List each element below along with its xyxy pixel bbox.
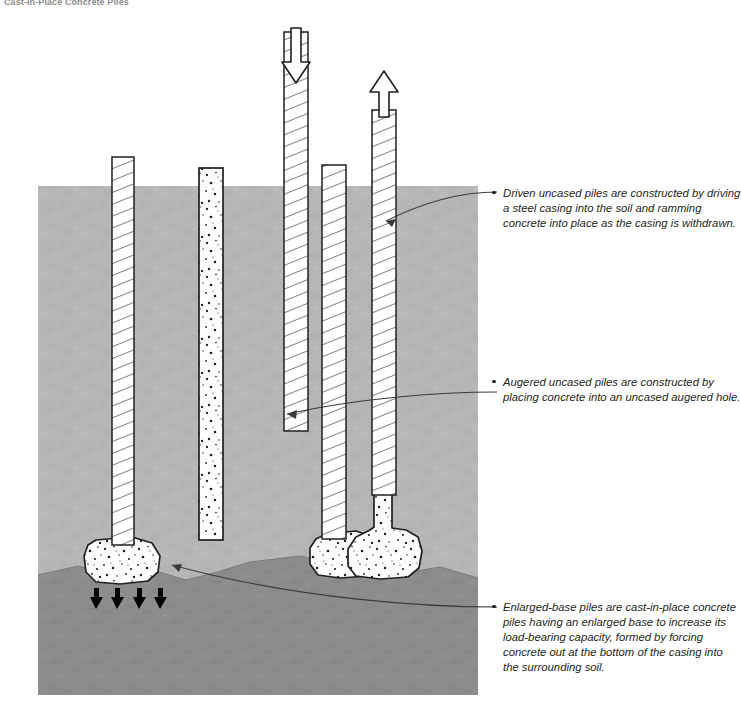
pile-driven-casing (282, 28, 310, 431)
annotation-augered-text: Augered uncased piles are constructed by… (503, 376, 740, 403)
annotation-augered-uncased-piles: Augered uncased piles are constructed by… (503, 375, 741, 405)
pile-shaft-hatched-withdrawn (372, 110, 396, 495)
annotation-bullet-icon (492, 605, 496, 609)
annotation-bullet-icon (492, 191, 496, 195)
annotation-enlarged-base-text: Enlarged-base piles are cast-in-place co… (503, 601, 736, 673)
pile-augered-uncased (199, 168, 223, 540)
pile-shaft-concrete-augered (199, 168, 223, 540)
annotation-bullet-icon (492, 380, 496, 384)
pile-shaft-hatched-left (112, 157, 134, 545)
annotation-driven-text: Driven uncased piles are constructed by … (503, 187, 740, 229)
pile-shaft-hatched-driven (284, 32, 308, 431)
annotation-enlarged-base-piles: Enlarged-base piles are cast-in-place co… (503, 600, 741, 675)
annotation-driven-uncased-piles: Driven uncased piles are constructed by … (503, 186, 741, 231)
pile-shaft-hatched-middle (322, 165, 346, 539)
soil-mass (38, 186, 478, 695)
